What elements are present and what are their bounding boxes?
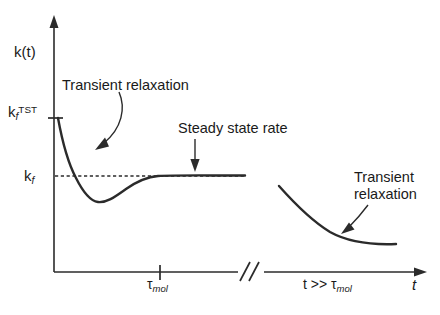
annotation-transient-relaxation-left: Transient relaxation xyxy=(62,77,189,94)
transient-relaxation-left-arrow-line xyxy=(104,92,122,143)
axis-break-slash-1 xyxy=(240,262,250,281)
annotation-steady-state-rate: Steady state rate xyxy=(178,120,288,137)
transient-relaxation-left-arrowhead xyxy=(95,138,109,151)
steady-state-arrowhead xyxy=(190,159,199,172)
transient-relaxation-right-arrow-line xyxy=(349,205,368,227)
axis-break-slash-2 xyxy=(249,262,259,281)
y-tick-label-k-f: kf xyxy=(24,167,34,187)
annotation-right-line-1: Transient xyxy=(354,169,414,185)
tau-mol-subscript: mol xyxy=(153,283,168,294)
diagram-canvas xyxy=(0,0,440,315)
annotation-transient-relaxation-right: Transientrelaxation xyxy=(354,169,417,202)
y-tick-label-k-tst: kfTST xyxy=(8,103,37,123)
y-axis-arrowhead xyxy=(50,15,59,28)
x-tick-label-tau-mol: τmol xyxy=(147,276,168,295)
y-axis-label: k(t) xyxy=(14,43,36,60)
annotation-right-line-2: relaxation xyxy=(354,186,417,202)
x-axis-label: t xyxy=(412,276,416,293)
regime-subscript: mol xyxy=(337,283,352,294)
x-axis-regime-label: t >> τmol xyxy=(303,276,352,295)
reactive-flux-diagram: k(t) kfTST kf τmol t >> τmol t Transient… xyxy=(0,0,440,315)
k-f-subscript: f xyxy=(32,175,35,186)
k-tst-superscript: TST xyxy=(18,104,37,115)
